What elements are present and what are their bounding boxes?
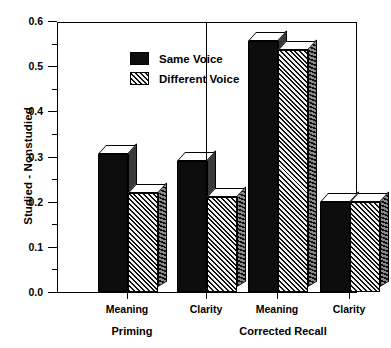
bar-front-face <box>248 41 278 292</box>
bar-side-face <box>237 187 246 287</box>
y-tick-major <box>48 157 57 158</box>
hatch-swatch-icon <box>130 72 149 85</box>
y-tick-label: 0.6 <box>15 15 43 27</box>
plot-area: Same VoiceDifferent Voice <box>57 22 357 293</box>
bar-same-voice-1 <box>177 161 207 292</box>
x-tick <box>127 293 128 299</box>
bar-front-face <box>177 161 207 292</box>
y-tick-label: 0.4 <box>15 105 43 117</box>
y-tick-label: 0.5 <box>15 60 43 72</box>
bar-front-face <box>98 154 128 292</box>
bar-different-voice-0 <box>128 193 158 292</box>
y-tick-major <box>48 247 57 248</box>
bar-front-face <box>278 50 308 292</box>
y-tick-label: 0.3 <box>15 151 43 163</box>
x-category-label: Clarity <box>307 303 391 315</box>
chart-legend: Same VoiceDifferent Voice <box>130 50 239 90</box>
legend-item: Different Voice <box>130 70 239 87</box>
bar-side-face <box>158 182 167 287</box>
x-group-label: Priming <box>52 325 212 337</box>
bar-front-face <box>128 193 158 292</box>
bar-same-voice-0 <box>98 154 128 292</box>
x-category-label: Meaning <box>85 303 169 315</box>
bar-side-face <box>308 40 317 287</box>
x-group-label: Corrected Recall <box>203 325 363 337</box>
bar-side-face <box>380 191 389 287</box>
x-tick <box>277 293 278 299</box>
y-tick-major <box>48 111 57 112</box>
y-axis-title: Studied - Nonstudied <box>22 76 34 256</box>
y-tick-major <box>48 202 57 203</box>
x-tick <box>349 293 350 299</box>
y-tick-major <box>48 292 57 293</box>
legend-item-label: Same Voice <box>159 53 223 65</box>
bar-front-face <box>207 197 237 292</box>
y-tick-major <box>48 66 57 67</box>
x-tick <box>206 293 207 299</box>
solid-swatch-icon <box>130 52 149 65</box>
bar-same-voice-3 <box>320 202 350 292</box>
bar-different-voice-2 <box>278 50 308 292</box>
bar-same-voice-2 <box>248 41 278 292</box>
bar-different-voice-3 <box>350 202 380 292</box>
y-tick-label: 0.1 <box>15 241 43 253</box>
bar-different-voice-1 <box>207 197 237 292</box>
bar-front-face <box>350 202 380 292</box>
legend-item-label: Different Voice <box>159 73 239 85</box>
panel-divider <box>206 22 207 296</box>
y-tick-major <box>48 21 57 22</box>
bar-front-face <box>320 202 350 292</box>
y-tick-label: 0.2 <box>15 196 43 208</box>
y-tick-label: 0.0 <box>15 286 43 298</box>
legend-item: Same Voice <box>130 50 239 67</box>
